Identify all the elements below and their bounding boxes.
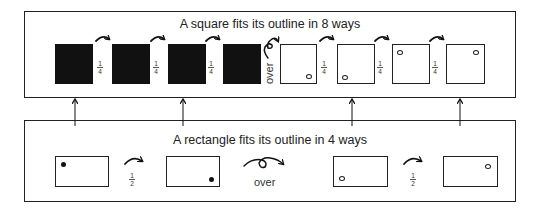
rotate-arrow-icon xyxy=(375,37,388,41)
arrows-layer xyxy=(0,0,537,210)
flip-arrow-icon xyxy=(244,158,283,168)
flip-arrow-icon xyxy=(264,38,278,58)
rotate-arrow-icon xyxy=(125,159,142,164)
rotate-arrow-icon xyxy=(151,37,164,41)
rotate-arrow-icon xyxy=(404,159,421,164)
rotate-arrow-icon xyxy=(206,37,219,41)
rotate-arrow-icon xyxy=(430,37,443,41)
rotate-arrow-icon xyxy=(96,37,109,41)
rotate-arrow-icon xyxy=(320,37,333,41)
